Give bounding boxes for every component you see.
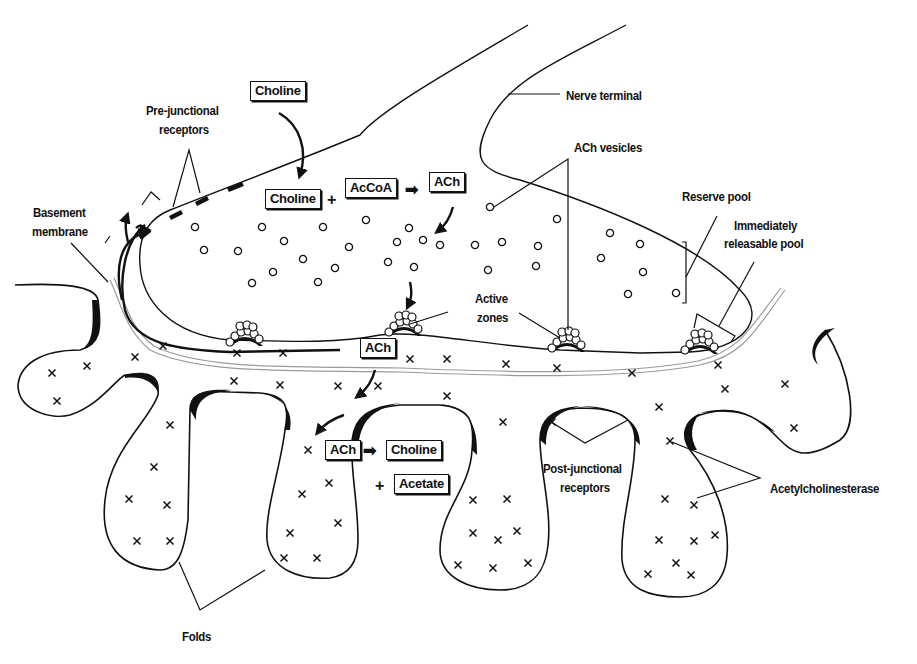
ach-vesicles — [191, 203, 679, 297]
terminal-membrane-thick — [122, 225, 340, 352]
label-basement-line1: Basement — [33, 205, 86, 220]
box-ach-hydrolysis: ACh — [325, 440, 361, 460]
box-choline: Choline — [265, 189, 321, 209]
arrow-synthesis: ➡ — [405, 182, 418, 198]
label-folds: Folds — [182, 629, 211, 644]
box-accoa: AcCoA — [345, 178, 397, 198]
box-ach-synthesized: ACh — [429, 172, 465, 192]
acetylcholinesterase-marks — [49, 343, 798, 579]
label-acetylcholinesterase: Acetylcholinesterase — [770, 481, 879, 496]
box-acetate: Acetate — [394, 474, 449, 494]
pre-junctional-pointer — [173, 150, 200, 207]
active-zones — [226, 311, 718, 354]
basement-membrane — [110, 278, 785, 376]
label-pre-junctional-line2: receptors — [159, 122, 209, 137]
label-nerve-terminal: Nerve terminal — [566, 88, 642, 103]
label-active-zones-line2: zones — [477, 310, 508, 325]
plus-sign-synthesis: + — [327, 192, 336, 208]
neuromuscular-junction-diagram — [0, 0, 917, 664]
arrow-hydrolysis: ➡ — [363, 443, 376, 459]
label-reserve-pool: Reserve pool — [682, 189, 751, 204]
label-pre-junctional-line1: Pre-junctional — [146, 103, 219, 118]
box-ach-released: ACh — [360, 338, 396, 358]
label-basement-line2: membrane — [32, 224, 88, 239]
label-post-junctional-line2: receptors — [560, 480, 610, 495]
label-immediately-releasable-line1: Immediately — [734, 218, 797, 233]
label-active-zones-line1: Active — [475, 291, 508, 306]
label-post-junctional-line1: Post-junctional — [543, 461, 622, 476]
process-arrows — [126, 113, 453, 432]
label-ach-vesicles: ACh vesicles — [574, 140, 642, 155]
box-choline-uptake: Choline — [250, 81, 306, 101]
plus-sign-hydrolysis: + — [375, 478, 384, 494]
box-choline-product: Choline — [386, 440, 442, 460]
pre-junctional-receptor-marks — [140, 184, 243, 238]
fold-crest-shading — [80, 300, 835, 455]
label-immediately-releasable-line2: releasable pool — [724, 236, 803, 251]
